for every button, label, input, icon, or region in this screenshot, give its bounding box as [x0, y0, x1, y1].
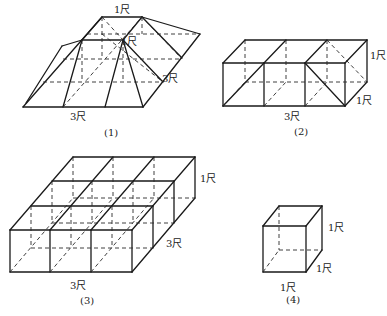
hidden-edge [10, 198, 73, 272]
dimension-label: 3尺 [284, 111, 300, 122]
visible-edge [264, 40, 286, 63]
dimension-label: 3尺 [166, 238, 182, 249]
figure-2-three-cube-row: 1尺 1尺 3尺 (2) [223, 40, 386, 137]
hidden-edge [305, 82, 327, 106]
visible-edge [132, 157, 195, 230]
visible-edge [50, 157, 113, 230]
visible-edge [345, 40, 367, 63]
dimension-label: 1尺 [200, 173, 216, 184]
dimension-label: 3尺 [70, 111, 86, 122]
dimension-label: 1尺 [370, 50, 386, 61]
hidden-edge [102, 17, 123, 40]
dimension-label: 1尺 [356, 95, 372, 106]
diagram-canvas: 1尺 1尺 3尺 3尺 (1) 1尺 1尺 3尺 (2) 1尺 3尺 3尺 (3… [0, 0, 387, 316]
visible-edge [26, 46, 62, 103]
visible-edge [10, 157, 73, 230]
visible-edge [305, 40, 327, 63]
figure-3-cube-grid: 1尺 3尺 3尺 (3) [10, 157, 216, 306]
figure-caption: (2) [294, 126, 308, 137]
dimension-label: 1尺 [316, 263, 332, 274]
visible-edge [132, 198, 195, 272]
visible-edge [223, 40, 245, 63]
visible-edge [91, 157, 154, 230]
figure-caption: (4) [286, 294, 300, 305]
figure-caption: (3) [80, 295, 94, 306]
hidden-edge [50, 198, 113, 272]
visible-edge [306, 206, 322, 226]
dimension-label: 1尺 [328, 222, 344, 233]
dimension-label: 1尺 [121, 36, 137, 47]
figure-1-stepped-pyramid: 1尺 1尺 3尺 3尺 (1) [23, 4, 200, 138]
hidden-edge [264, 82, 286, 106]
dimension-label: 3尺 [162, 73, 178, 84]
visible-edge [263, 206, 279, 226]
visible-edge [105, 40, 123, 107]
figure-caption: (1) [104, 127, 118, 138]
dimension-label: 3尺 [70, 280, 86, 291]
visible-edge [82, 17, 102, 40]
hidden-edge [263, 250, 279, 272]
dimension-label: 1尺 [114, 4, 130, 15]
hidden-edge [91, 198, 154, 272]
dimension-label: 1尺 [280, 282, 296, 293]
figure-4-unit-cube: 1尺 1尺 1尺 (4) [263, 206, 344, 305]
